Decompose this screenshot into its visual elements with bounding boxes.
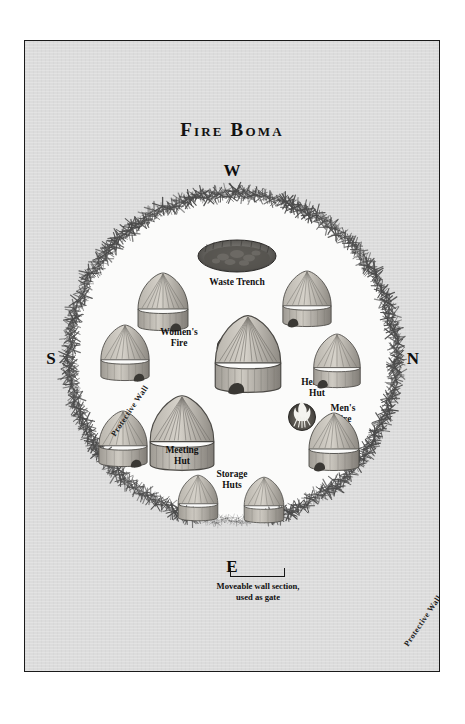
meeting-hut-label: Meeting Hut [150, 445, 214, 467]
waste-trench [197, 239, 277, 277]
gate-bracket [230, 568, 285, 577]
healing-hut [210, 313, 286, 397]
hut-lower-right [305, 411, 363, 475]
protective-wall-label-lower: Protective Wall [402, 594, 440, 648]
hut-left-mid [97, 323, 153, 385]
map-plate: Fire Boma W E S N [24, 40, 440, 672]
compass-west: W [25, 161, 439, 181]
hut-upper-right [279, 269, 335, 331]
illustration-page: Fire Boma W E S N [0, 0, 465, 724]
storage-huts-label: Storage Huts [199, 469, 265, 491]
page-title: Fire Boma [25, 119, 439, 141]
gate-label: Moveable wall section, used as gate [153, 581, 363, 602]
boma-compound: Waste Trench [57, 181, 409, 533]
hut-right-mid [310, 332, 364, 392]
womens-fire-label: Women's Fire [145, 327, 213, 349]
